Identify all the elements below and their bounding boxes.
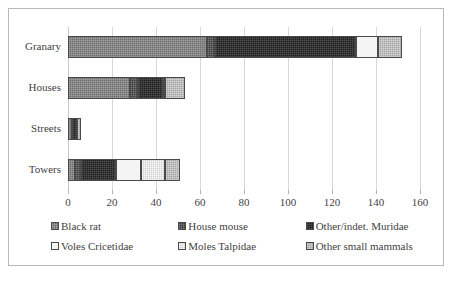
bar-segment-voles xyxy=(356,36,378,58)
x-tick xyxy=(376,190,377,194)
legend-label: Other/indet. Muridae xyxy=(316,220,409,232)
legend-row: Black ratHouse mouseOther/indet. Muridae xyxy=(37,216,419,236)
bar-segment-othersmall xyxy=(378,36,402,58)
x-tick xyxy=(68,190,69,194)
legend-item[interactable]: Black rat xyxy=(37,216,164,236)
category-label-houses: Houses xyxy=(29,81,61,93)
x-tick xyxy=(244,190,245,194)
legend-label: House mouse xyxy=(188,220,248,232)
x-tick-label: 60 xyxy=(180,196,220,208)
bar-segment-voles xyxy=(116,159,140,181)
category-label-towers: Towers xyxy=(29,163,61,175)
legend-label: Voles Cricetidae xyxy=(61,240,133,252)
x-tick-label: 40 xyxy=(136,196,176,208)
legend-swatch-icon xyxy=(51,222,59,230)
x-tick xyxy=(112,190,113,194)
legend-swatch-icon xyxy=(178,242,186,250)
legend-swatch-icon xyxy=(306,242,314,250)
chart-legend: Black ratHouse mouseOther/indet. Muridae… xyxy=(37,216,419,260)
legend-swatch-icon xyxy=(51,242,59,250)
bar-segment-muridae xyxy=(138,77,162,99)
x-tick-label: 100 xyxy=(268,196,308,208)
bar-segment-moles xyxy=(141,159,165,181)
plot-area: 020406080100120140160 xyxy=(68,27,420,190)
bar-segment-housemouse xyxy=(207,36,216,58)
x-tick-label: 80 xyxy=(224,196,264,208)
x-tick xyxy=(288,190,289,194)
chart-figure: GranaryHousesStreetsTowers 0204060801001… xyxy=(8,8,444,266)
legend-label: Black rat xyxy=(61,220,101,232)
x-tick-label: 160 xyxy=(400,196,440,208)
bar-segment-blackrat xyxy=(68,77,130,99)
bar-segment-othersmall xyxy=(165,77,185,99)
bar-segment-housemouse xyxy=(130,77,139,99)
legend-label: Moles Talpidae xyxy=(188,240,256,252)
x-tick-label: 0 xyxy=(48,196,88,208)
legend-item[interactable]: Other/indet. Muridae xyxy=(292,216,419,236)
legend-swatch-icon xyxy=(306,222,314,230)
bar-segment-muridae xyxy=(215,36,356,58)
legend-item[interactable]: Voles Cricetidae xyxy=(37,236,164,256)
x-tick xyxy=(200,190,201,194)
legend-row: Voles CricetidaeMoles TalpidaeOther smal… xyxy=(37,236,419,256)
bar-houses xyxy=(68,77,420,99)
bar-granary xyxy=(68,36,420,58)
x-tick-label: 140 xyxy=(356,196,396,208)
legend-item[interactable]: Moles Talpidae xyxy=(164,236,291,256)
legend-item[interactable]: Other small mammals xyxy=(292,236,419,256)
legend-item[interactable]: House mouse xyxy=(164,216,291,236)
bar-segment-othersmall xyxy=(165,159,180,181)
legend-swatch-icon xyxy=(178,222,186,230)
bar-towers xyxy=(68,159,420,181)
bar-streets xyxy=(68,118,420,140)
bar-segment-blackrat xyxy=(68,159,75,181)
category-axis: GranaryHousesStreetsTowers xyxy=(9,27,61,190)
gridline xyxy=(420,27,421,190)
x-tick xyxy=(420,190,421,194)
bar-segment-housemouse xyxy=(75,159,82,181)
bar-segment-blackrat xyxy=(68,36,207,58)
legend-label: Other small mammals xyxy=(316,240,413,252)
category-label-granary: Granary xyxy=(25,40,61,52)
x-tick-label: 20 xyxy=(92,196,132,208)
category-label-streets: Streets xyxy=(31,122,61,134)
bar-segment-othersmall xyxy=(77,118,81,140)
x-tick xyxy=(332,190,333,194)
x-tick xyxy=(156,190,157,194)
x-tick-label: 120 xyxy=(312,196,352,208)
bar-segment-muridae xyxy=(81,159,116,181)
